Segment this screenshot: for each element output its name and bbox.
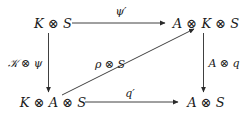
label-bottom-arrow: q′: [125, 88, 135, 99]
node-bottom-left: K ⊗ A ⊗ S: [20, 96, 86, 109]
node-bottom-right: A ⊗ S: [187, 96, 224, 109]
commutative-diagram: K ⊗ S A ⊗ K ⊗ S K ⊗ A ⊗ S A ⊗ S ψ′ 𝒦 ⊗ ψ…: [0, 0, 246, 113]
label-diagonal-arrow: ρ ⊗ S: [95, 59, 125, 70]
label-right-arrow: A ⊗ q: [208, 58, 239, 69]
node-top-left: K ⊗ S: [34, 17, 72, 30]
arrow-diagonal: [62, 29, 194, 95]
node-top-right: A ⊗ K ⊗ S: [173, 17, 239, 30]
label-top-arrow: ψ′: [115, 6, 126, 17]
label-left-arrow: 𝒦 ⊗ ψ: [8, 58, 43, 69]
